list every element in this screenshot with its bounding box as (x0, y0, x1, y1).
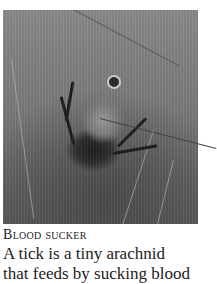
caption-body-line: A tick is a tiny arachnid (3, 244, 216, 264)
grass-stem (156, 160, 174, 224)
tick-leg (113, 144, 158, 155)
grass-stem (11, 60, 34, 219)
tick-spot (107, 75, 121, 89)
tick-leg (117, 117, 147, 147)
grass-stem (122, 130, 154, 224)
tick-leg (60, 96, 76, 145)
figure-caption: Blood sucker A tick is a tiny arachnid t… (3, 226, 216, 284)
tick-leg (65, 81, 75, 121)
grass-stem (73, 10, 179, 66)
caption-body-line: that feeds by sucking blood (3, 264, 216, 284)
caption-title: Blood sucker (3, 226, 216, 244)
tick-photo (3, 10, 198, 224)
